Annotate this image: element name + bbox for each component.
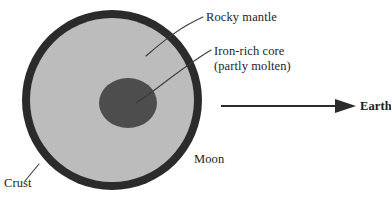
label-earth: Earth [360,99,391,114]
moon-core-layer [99,78,157,128]
label-iron-rich-core: Iron-rich core (partly molten) [214,44,291,73]
label-iron-rich-core-line2: (partly molten) [214,59,291,74]
label-crust: Crust [4,176,32,191]
label-moon: Moon [194,152,224,167]
moon-structure-diagram: Rocky mantle Iron-rich core (partly molt… [0,0,391,202]
label-rocky-mantle: Rocky mantle [206,10,277,25]
label-iron-rich-core-line1: Iron-rich core [214,44,284,58]
earth-direction-arrow-head [335,99,356,113]
moon-cross-section-graphic [0,0,391,202]
